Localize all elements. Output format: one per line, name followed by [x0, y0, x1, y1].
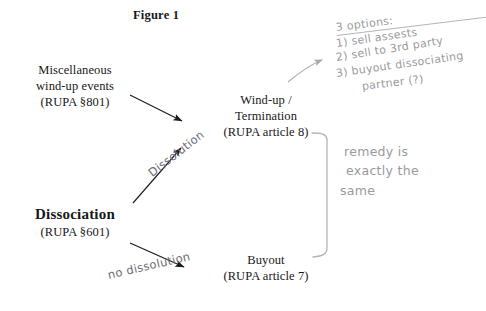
- node-dissociation: Dissociation (RUPA §601): [10, 205, 140, 240]
- pencil-arrow-to-options: [288, 60, 322, 82]
- node-line: wind-up events: [10, 78, 140, 94]
- annotation-three-options: 3 options: 1) sell assests 2) sell to 3r…: [336, 22, 486, 93]
- node-line: Wind-up /: [196, 92, 336, 108]
- node-line: (RUPA article 8): [196, 124, 336, 140]
- node-line: (RUPA §601): [10, 224, 140, 240]
- node-miscellaneous-wind-up-events: Miscellaneous wind-up events (RUPA §801): [10, 62, 140, 110]
- annotation-remedy-line: exactly the: [346, 161, 419, 180]
- node-line: Dissociation: [10, 205, 140, 224]
- annotation-remedy-line: same: [340, 181, 419, 200]
- grouping-brace: [312, 133, 327, 257]
- annotation-remedy: remedy is exactly the same: [344, 142, 419, 200]
- node-wind-up-termination: Wind-up / Termination (RUPA article 8): [196, 92, 336, 140]
- annotation-remedy-line: remedy is: [344, 142, 419, 161]
- node-line: (RUPA §801): [10, 94, 140, 110]
- node-buyout: Buyout (RUPA article 7): [196, 252, 336, 284]
- node-line: Buyout: [196, 252, 336, 268]
- node-line: Miscellaneous: [10, 62, 140, 78]
- edge-label-line: no: [106, 265, 124, 282]
- node-line: Termination: [196, 108, 336, 124]
- node-line: (RUPA article 7): [196, 268, 336, 284]
